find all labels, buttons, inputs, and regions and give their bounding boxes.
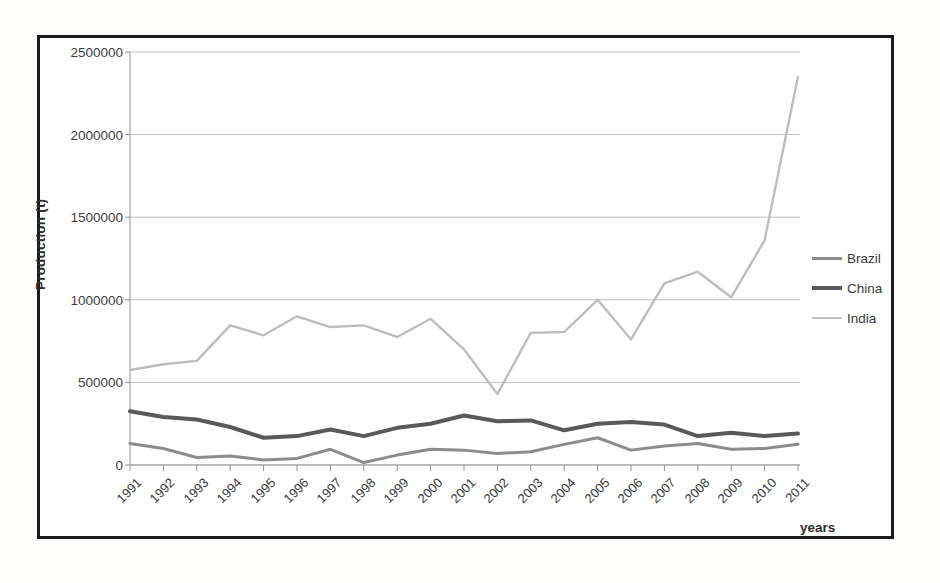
series-line-india: [130, 77, 798, 394]
legend-swatch-icon: [812, 257, 842, 260]
series-line-brazil: [130, 438, 798, 463]
y-tick-label: 500000: [55, 375, 123, 390]
legend-swatch-icon: [812, 286, 842, 290]
x-tickmarks-group: [130, 465, 798, 471]
axis-lines-group: [130, 52, 800, 465]
legend-item-india[interactable]: India: [812, 303, 907, 333]
y-tick-label: 2500000: [55, 45, 123, 60]
series-line-china: [130, 411, 798, 437]
y-tick-label: 2000000: [55, 127, 123, 142]
legend-item-china[interactable]: China: [812, 273, 907, 303]
legend-label: China: [847, 281, 882, 296]
x-axis-title: years: [800, 520, 835, 535]
y-tick-label: 0: [55, 458, 123, 473]
legend-label: Brazil: [847, 251, 881, 266]
y-tickmarks-group: [125, 52, 130, 465]
chart-figure: 05000001000000150000020000002500000 1991…: [0, 0, 940, 583]
y-tick-label: 1000000: [55, 292, 123, 307]
chart-legend: BrazilChinaIndia: [812, 243, 907, 333]
y-tick-label: 1500000: [55, 210, 123, 225]
y-axis-title: Production (t): [33, 199, 48, 290]
gridlines-group: [130, 52, 800, 465]
legend-label: India: [847, 311, 876, 326]
legend-item-brazil[interactable]: Brazil: [812, 243, 907, 273]
legend-swatch-icon: [812, 317, 842, 319]
